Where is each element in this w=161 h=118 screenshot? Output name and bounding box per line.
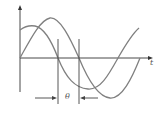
- phase-label: θ: [65, 93, 70, 101]
- arrow-left-icon: [80, 96, 85, 100]
- arrow-right-icon: [52, 96, 57, 100]
- y-axis-arrow-icon: [18, 5, 22, 10]
- phase-diagram: [0, 0, 161, 118]
- leading-wave: [20, 26, 139, 89]
- x-axis-label: t: [150, 59, 153, 67]
